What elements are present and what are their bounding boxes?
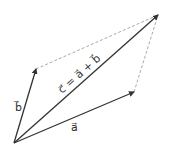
vector-addition-diagram: a⃗ b⃗ c⃗ = a⃗ + b⃗ (0, 0, 172, 157)
vector-a-arrow (14, 92, 134, 143)
vector-c-arrow (14, 15, 158, 143)
vector-a-label: a⃗ (71, 121, 78, 134)
vector-b-label: b⃗ (13, 100, 22, 114)
dashed-edge-a-to-c (134, 15, 158, 92)
vector-c-label: c⃗ = a⃗ + b⃗ (55, 51, 104, 96)
